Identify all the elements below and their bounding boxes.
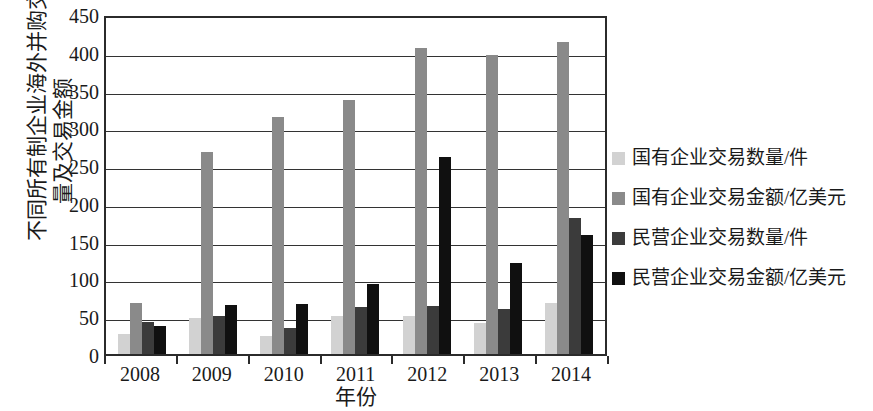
bar-group-2010 bbox=[260, 18, 308, 354]
bar-group-2008 bbox=[118, 18, 166, 354]
y-axis-tick-labels: 450400350300250200150100500 bbox=[45, 0, 99, 411]
bar bbox=[130, 303, 142, 354]
bar bbox=[154, 326, 166, 354]
bar bbox=[427, 306, 439, 354]
y-axis-tick-label: 200 bbox=[53, 195, 99, 215]
bar bbox=[415, 48, 427, 354]
bar bbox=[486, 55, 498, 354]
x-axis-tick bbox=[607, 356, 609, 364]
legend-item[interactable]: 民营企业交易数量/件 bbox=[612, 218, 873, 258]
plot-area bbox=[104, 16, 607, 356]
legend-item[interactable]: 国有企业交易金额/亿美元 bbox=[612, 178, 873, 218]
bar bbox=[272, 117, 284, 354]
bar bbox=[510, 263, 522, 354]
bar bbox=[355, 307, 367, 354]
legend-label: 国有企业交易数量/件 bbox=[632, 147, 808, 169]
bar-group-2013 bbox=[474, 18, 522, 354]
bar bbox=[189, 318, 201, 354]
bar bbox=[331, 316, 343, 354]
y-axis-tick-label: 150 bbox=[53, 233, 99, 253]
y-axis-tick-label: 350 bbox=[53, 82, 99, 102]
legend-item[interactable]: 国有企业交易数量/件 bbox=[612, 138, 873, 178]
bar bbox=[118, 334, 130, 354]
bar bbox=[474, 323, 486, 354]
legend-label: 民营企业交易数量/件 bbox=[632, 227, 808, 249]
bar bbox=[439, 157, 451, 354]
chart-figure: 不同所有制企业海外并购交易数 量及交易金额 450400350300250200… bbox=[0, 0, 873, 411]
bar bbox=[201, 152, 213, 354]
bar bbox=[343, 100, 355, 354]
bar-group-2012 bbox=[403, 18, 451, 354]
bar bbox=[213, 316, 225, 354]
bar bbox=[284, 328, 296, 354]
bar-groups bbox=[106, 18, 605, 354]
y-axis-tick-label: 300 bbox=[53, 119, 99, 139]
y-axis-tick-label: 50 bbox=[53, 308, 99, 328]
bar bbox=[569, 218, 581, 354]
bar-group-2014 bbox=[545, 18, 593, 354]
legend-swatch-icon bbox=[612, 152, 625, 165]
bar bbox=[296, 304, 308, 354]
bar bbox=[367, 284, 379, 354]
y-axis-tick-label: 250 bbox=[53, 157, 99, 177]
legend-swatch-icon bbox=[612, 192, 625, 205]
legend-swatch-icon bbox=[612, 272, 625, 285]
legend-swatch-icon bbox=[612, 232, 625, 245]
x-axis-title: 年份 bbox=[104, 385, 607, 409]
bar bbox=[142, 322, 154, 354]
bar-group-2009 bbox=[189, 18, 237, 354]
bar bbox=[545, 303, 557, 354]
y-axis-tick-label: 0 bbox=[53, 346, 99, 366]
chart-legend: 国有企业交易数量/件国有企业交易金额/亿美元民营企业交易数量/件民营企业交易金额… bbox=[612, 138, 873, 298]
legend-item[interactable]: 民营企业交易金额/亿美元 bbox=[612, 258, 873, 298]
bar bbox=[581, 235, 593, 354]
y-axis-tick-label: 100 bbox=[53, 270, 99, 290]
bar bbox=[557, 42, 569, 354]
y-axis-tick-label: 400 bbox=[53, 44, 99, 64]
legend-label: 民营企业交易金额/亿美元 bbox=[632, 267, 846, 289]
bar bbox=[498, 309, 510, 354]
legend-label: 国有企业交易金额/亿美元 bbox=[632, 187, 846, 209]
bar bbox=[260, 336, 272, 354]
bar bbox=[403, 316, 415, 354]
bar bbox=[225, 305, 237, 354]
y-axis-tick-label: 450 bbox=[53, 6, 99, 26]
bar-group-2011 bbox=[331, 18, 379, 354]
